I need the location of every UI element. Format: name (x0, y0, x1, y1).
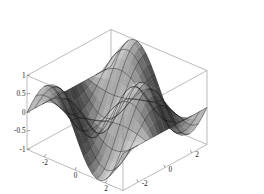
surface-plot-figure: 10.50-0.5-1-20220-2 (0, 0, 264, 194)
axis-tick-label: 0 (168, 166, 172, 174)
axis-tick-label: -0.5 (14, 127, 26, 135)
axis-tick-label: 0.5 (17, 90, 26, 98)
axis-tick-label: -1 (20, 146, 26, 154)
axis-tick-label: 2 (195, 151, 199, 159)
axis-tick-label: -2 (42, 159, 48, 167)
axis-tick-label: 0 (74, 172, 78, 180)
plot-canvas: 10.50-0.5-1-20220-2 (0, 0, 264, 194)
axis-tick-label: -2 (142, 180, 148, 188)
axis-tick-label: 1 (22, 72, 26, 80)
axis-tick-label: 0 (22, 109, 26, 117)
axis-tick-label: 2 (104, 185, 108, 193)
